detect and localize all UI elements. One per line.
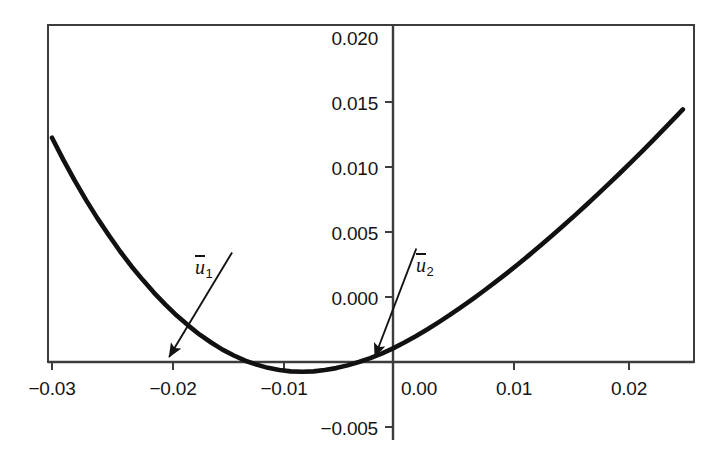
x-tick-label-0.01: 0.01: [474, 378, 554, 400]
y-tick-label--0.005: −0.005: [284, 418, 378, 440]
chart-figure: 0.020 0.015 0.010 0.005 0.000 −0.005 −0.…: [0, 0, 716, 466]
x-tick-label-0.00: 0.00: [379, 378, 459, 400]
u2-subscript: 2: [427, 264, 434, 279]
u1-subscript: 1: [206, 266, 213, 281]
y-tick-label-0.015: 0.015: [296, 93, 378, 115]
x-tick-label--0.02: −0.02: [133, 378, 213, 400]
x-tick-label--0.03: −0.03: [12, 378, 92, 400]
y-tick-label-0.020: 0.020: [296, 28, 378, 50]
y-tick-label-0.010: 0.010: [296, 158, 378, 180]
y-tick-label-0.000: 0.000: [296, 288, 378, 310]
u1-base: u: [195, 255, 205, 279]
x-tick-label--0.01: −0.01: [244, 378, 324, 400]
y-tick-label-0.005: 0.005: [296, 223, 378, 245]
annotation-label-u1: u1: [195, 255, 213, 281]
u2-base: u: [416, 253, 426, 277]
x-tick-label-0.02: 0.02: [589, 378, 669, 400]
annotation-label-u2: u2: [416, 253, 434, 279]
